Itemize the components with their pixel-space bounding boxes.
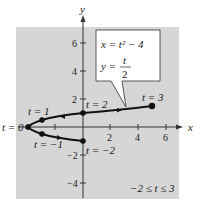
- x-tick-label: 4: [135, 132, 140, 143]
- parametric-chart: x y 2 4 6 6 4 2 −2 −4 t = 0 t = 1 t = −1…: [0, 0, 206, 211]
- x-tick-label: 2: [107, 132, 112, 143]
- y-tick-label: 6: [72, 38, 77, 49]
- y-tick-label: −4: [67, 178, 78, 189]
- y-tick-label: 2: [72, 94, 77, 105]
- point-t1: [39, 117, 45, 123]
- y-tick-label: 4: [72, 66, 77, 77]
- label-t3: t = 3: [142, 91, 164, 103]
- parameter-range: −2 ≤ t ≤ 3: [130, 182, 175, 194]
- equation-y-denominator: 2: [122, 68, 128, 80]
- y-tick-label: −2: [67, 150, 78, 161]
- point-tm1: [39, 131, 45, 137]
- x-axis-arrow-icon: [176, 125, 183, 130]
- y-axis-label: y: [79, 3, 85, 15]
- point-t3: [149, 103, 155, 109]
- point-tm2: [80, 138, 86, 144]
- label-tm1: t = −1: [34, 138, 63, 150]
- x-tick-label: 6: [163, 132, 168, 143]
- label-t1: t = 1: [28, 105, 49, 117]
- label-t2: t = 2: [86, 98, 108, 110]
- point-t0: [25, 124, 31, 130]
- point-t2: [80, 110, 86, 116]
- equation-y-lhs: y =: [100, 60, 116, 72]
- y-axis-arrow-icon: [81, 15, 86, 22]
- label-tm2: t = −2: [86, 144, 115, 156]
- x-axis-label: x: [187, 121, 193, 133]
- equation-x: x = t² − 4: [100, 38, 144, 50]
- label-t0: t = 0: [2, 121, 24, 133]
